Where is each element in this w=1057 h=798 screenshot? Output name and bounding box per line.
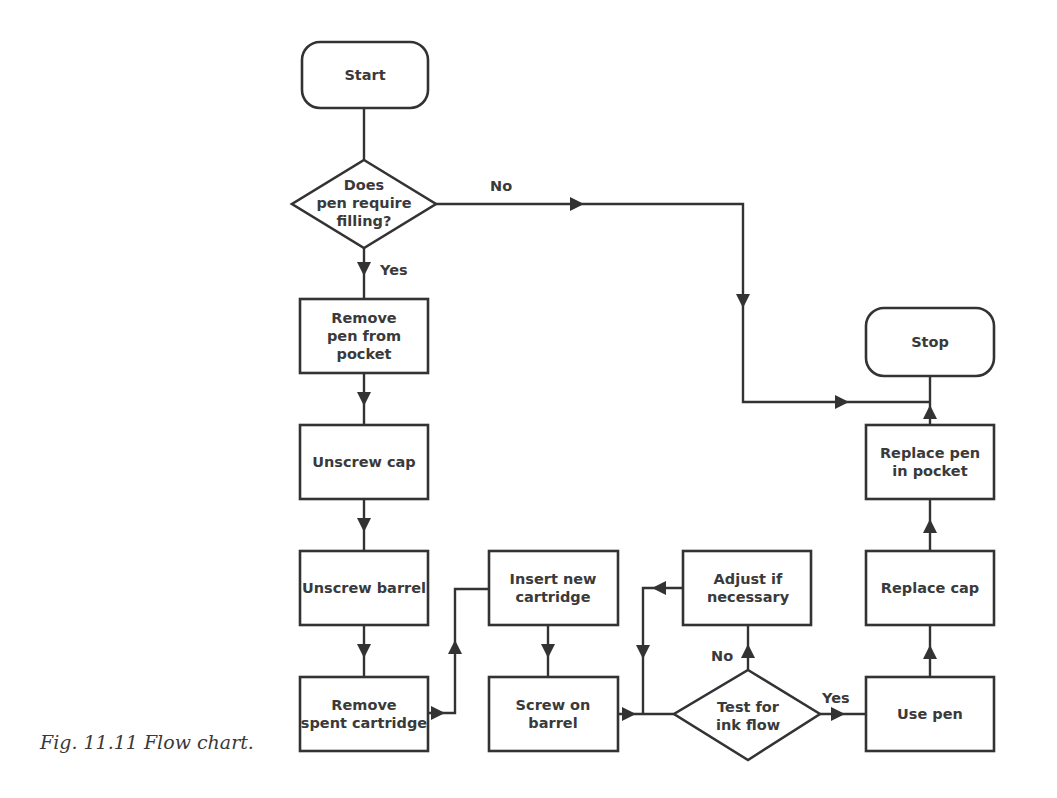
svg-text:Remove: Remove xyxy=(331,697,397,713)
node-remove-spent-cartridge: Remove spent cartridge xyxy=(300,677,428,751)
arrow-up-icon xyxy=(923,519,937,533)
edge-label-yes: Yes xyxy=(379,262,408,278)
svg-text:pen require: pen require xyxy=(316,195,411,211)
node-decision-requires-filling: Does pen require filling? xyxy=(292,160,436,248)
edge-label-yes: Yes xyxy=(821,690,850,706)
svg-text:Remove: Remove xyxy=(331,310,397,326)
svg-text:Test for: Test for xyxy=(717,699,780,715)
arrow-up-icon xyxy=(448,640,462,654)
svg-text:Replace pen: Replace pen xyxy=(880,445,980,461)
arrow-left-icon xyxy=(652,581,666,595)
arrow-up-icon xyxy=(741,644,755,658)
svg-text:necessary: necessary xyxy=(707,589,790,605)
svg-text:Use pen: Use pen xyxy=(897,706,963,722)
node-unscrew-barrel: Unscrew barrel xyxy=(300,551,428,625)
connectors xyxy=(364,108,930,714)
edge-label-no: No xyxy=(711,648,733,664)
svg-text:spent cartridge: spent cartridge xyxy=(301,715,427,731)
arrow-up-icon xyxy=(923,645,937,659)
arrow-down-icon xyxy=(636,645,650,659)
arrow-down-icon xyxy=(357,262,371,276)
arrow-down-icon xyxy=(736,294,750,308)
arrow-down-icon xyxy=(541,644,555,658)
node-unscrew-cap: Unscrew cap xyxy=(300,425,428,499)
svg-text:cartridge: cartridge xyxy=(515,589,590,605)
arrow-down-icon xyxy=(357,392,371,406)
node-start: Start xyxy=(302,42,428,108)
node-screw-on-barrel: Screw on barrel xyxy=(489,677,618,751)
arrow-right-icon xyxy=(831,707,845,721)
edge-adjust-loop xyxy=(643,588,683,714)
arrow-right-icon xyxy=(835,395,849,409)
node-insert-new-cartridge: Insert new cartridge xyxy=(489,551,618,625)
node-use-pen: Use pen xyxy=(866,677,994,751)
svg-text:Insert new: Insert new xyxy=(510,571,597,587)
svg-text:Unscrew cap: Unscrew cap xyxy=(312,454,416,470)
arrow-right-icon xyxy=(431,706,445,720)
node-replace-cap: Replace cap xyxy=(866,551,994,625)
svg-text:ink flow: ink flow xyxy=(716,717,780,733)
svg-text:Adjust if: Adjust if xyxy=(714,571,783,587)
svg-text:Replace cap: Replace cap xyxy=(881,580,979,596)
svg-text:Stop: Stop xyxy=(911,334,949,350)
svg-text:pen from: pen from xyxy=(327,328,401,344)
svg-text:filling?: filling? xyxy=(337,213,392,229)
edge-no-to-stop xyxy=(436,204,930,402)
svg-text:Unscrew barrel: Unscrew barrel xyxy=(302,580,426,596)
svg-text:Screw on: Screw on xyxy=(516,697,591,713)
svg-text:Does: Does xyxy=(344,177,384,193)
edge-label-no: No xyxy=(490,178,512,194)
node-remove-pen: Remove pen from pocket xyxy=(300,299,428,373)
node-decision-test-ink-flow: Test for ink flow xyxy=(674,670,820,760)
node-adjust-if-necessary: Adjust if necessary xyxy=(683,551,811,625)
node-stop: Stop xyxy=(866,308,994,376)
flowchart: No Yes No Yes Start Does pen require fil… xyxy=(0,0,1057,798)
node-replace-pen-in-pocket: Replace pen in pocket xyxy=(866,425,994,499)
arrow-down-icon xyxy=(357,518,371,532)
svg-text:pocket: pocket xyxy=(337,346,392,362)
svg-text:barrel: barrel xyxy=(528,715,577,731)
arrow-up-icon xyxy=(923,405,937,419)
arrowheads xyxy=(357,197,937,721)
arrow-right-icon xyxy=(570,197,584,211)
svg-text:in pocket: in pocket xyxy=(892,463,967,479)
svg-text:Start: Start xyxy=(344,67,385,83)
arrow-down-icon xyxy=(357,644,371,658)
arrow-right-icon xyxy=(622,707,636,721)
